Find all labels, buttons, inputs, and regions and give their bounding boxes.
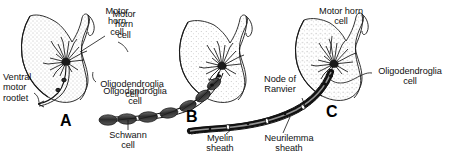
panel-letter-b: B [186,109,198,125]
leader-motor-horn-cell-a [80,36,105,52]
label-motor-horn-cell-c: Motor horn cell [310,6,372,27]
panel-letter-c: C [326,104,338,120]
label-oligodendroglia-cell-b: Oligodendroglia cell [99,86,171,107]
leader-motor-horn-cell-b [118,42,128,52]
panel-b-gray-matter [179,15,252,102]
neuron-myelination-figure: Motor horn cell Ventral motor rootlet Ol… [0,0,451,158]
label-ventral-motor-rootlet: Ventral motor rootlet [3,72,55,103]
label-node-of-ranvier: Node of Ranvier [258,74,302,95]
panel-letter-a: A [60,113,72,129]
label-schwann-cell: Schwann cell [103,130,153,151]
label-motor-horn-cell-b: Motor horn cell [104,9,144,40]
caption-strip-cutoff: ​ [0,149,451,158]
label-oligodendroglia-cell-c: Oligodendroglia cell [372,66,448,87]
